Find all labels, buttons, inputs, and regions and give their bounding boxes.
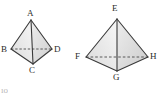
- geometry-figure-canvas: A B C D E F G H ıo: [0, 0, 162, 95]
- right-face-EFG: [86, 19, 117, 71]
- vertex-label-D: D: [54, 45, 61, 54]
- left-face-ABC: [11, 20, 33, 64]
- vertex-label-A: A: [27, 9, 34, 18]
- vertex-label-C: C: [29, 66, 35, 75]
- vertex-label-E: E: [112, 4, 118, 13]
- vertex-label-H: H: [150, 52, 157, 61]
- right-tetrahedron-edges: [86, 19, 148, 71]
- right-face-EGH: [117, 19, 148, 71]
- tetrahedra-diagram: [0, 0, 162, 95]
- vertex-label-F: F: [75, 52, 80, 61]
- vertex-label-B: B: [1, 45, 7, 54]
- vertex-label-G: G: [113, 73, 120, 82]
- bottom-clipped-text-fragment: ıo: [1, 86, 8, 93]
